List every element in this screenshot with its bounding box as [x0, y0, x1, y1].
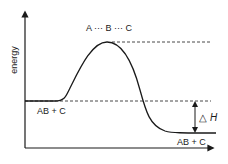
- transition-state-label: A ··· B ··· C: [86, 23, 132, 33]
- reaction-curve: [25, 42, 216, 133]
- y-axis-label: energy: [9, 46, 19, 74]
- energy-diagram: energy A ··· B ··· C AB + C AB + C △ H: [0, 0, 228, 164]
- delta-h-arrowhead-down: [192, 127, 198, 133]
- products-label: AB + C: [177, 137, 206, 147]
- delta-h-symbol: △: [199, 112, 207, 123]
- delta-h-arrowhead-up: [192, 101, 198, 107]
- reactants-label: AB + C: [37, 106, 66, 116]
- delta-h-variable: H: [210, 112, 218, 123]
